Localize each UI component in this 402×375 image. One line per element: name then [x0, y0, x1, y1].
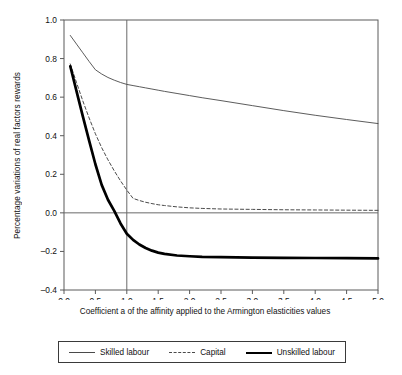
x-tick-label: 1.0 [121, 296, 133, 300]
y-tick-label: 0.2 [45, 169, 57, 179]
x-tick-label: 2.5 [215, 296, 227, 300]
plot-area: 1.00.80.60.40.20.0–0.2–0.40.00.51.01.52.… [0, 0, 402, 300]
x-tick-label: 4.5 [341, 296, 353, 300]
legend-label-capital: Capital [200, 348, 226, 357]
x-tick-label: 2.0 [184, 296, 196, 300]
y-tick-label: –0.4 [41, 285, 58, 295]
y-tick-label: –0.2 [41, 246, 58, 256]
x-tick-label: 3.0 [247, 296, 259, 300]
legend-line-solid-thin-icon [69, 347, 95, 357]
legend-label-unskilled-labour: Unskilled labour [277, 348, 335, 357]
x-tick-label: 4.0 [309, 296, 321, 300]
x-tick-label: 0.5 [90, 296, 102, 300]
y-tick-label: 1.0 [45, 15, 57, 25]
y-tick-label: 0.6 [45, 92, 57, 102]
chart-legend: Skilled labour Capital Unskilled labour [58, 341, 346, 363]
x-tick-label: 1.5 [152, 296, 164, 300]
legend-item-capital[interactable]: Capital [169, 347, 226, 357]
x-axis-title: Coefficient a of the affinity applied to… [40, 306, 370, 318]
x-tick-label: 3.5 [278, 296, 290, 300]
legend-line-solid-thick-icon [246, 347, 272, 357]
legend-item-skilled-labour[interactable]: Skilled labour [69, 347, 149, 357]
legend-item-unskilled-labour[interactable]: Unskilled labour [246, 347, 335, 357]
plot-frame [64, 20, 378, 290]
legend-line-dashed-icon [169, 347, 195, 357]
x-tick-label: 5.0 [372, 296, 384, 300]
legend-label-skilled-labour: Skilled labour [100, 348, 149, 357]
y-tick-label: 0.0 [45, 208, 57, 218]
x-tick-label: 0.0 [58, 296, 70, 300]
series-line-capital [70, 64, 378, 210]
chart-figure: Percentage variations of real factors re… [0, 0, 402, 375]
series-line-skilled-labour [70, 35, 378, 123]
series-line-unskilled-labour [70, 66, 378, 258]
y-tick-label: 0.4 [45, 131, 57, 141]
y-tick-label: 0.8 [45, 54, 57, 64]
